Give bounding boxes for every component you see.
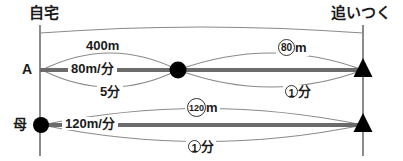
annot-distance-120m-circled: 120m [185,98,220,117]
unit-min-a: 分 [298,84,311,99]
circled-value-1-mother: 1 [188,140,201,153]
annot-time-5min: 5分 [97,85,123,98]
speed-distance-diagram: 自宅 追いつく A 母 400m 80m/分 5分 80m 1分 120m 12… [0,0,403,161]
unit-min-mother: 分 [201,139,214,154]
meeting-point-dot-marker [170,62,187,79]
unit-m-120: m [206,100,218,115]
circled-value-80: 80 [278,39,295,56]
lens-arc-80m-top [178,53,363,70]
diagram-canvas [0,0,403,161]
unit-m-80: m [295,40,307,55]
row-label-a: A [22,62,32,76]
annot-distance-400m: 400m [83,39,122,52]
catchup-label: 追いつく [331,5,391,20]
catchup-triangle-marker-mother [354,113,373,132]
circled-value-1-a: 1 [285,85,298,98]
outer-arc-total [40,27,363,33]
annot-distance-80m-circled: 80m [276,39,309,56]
annot-time-1min-circled-a: 1分 [283,85,313,98]
home-label: 自宅 [29,5,59,20]
annot-time-1min-circled-mother: 1分 [186,140,216,153]
circled-value-120: 120 [187,98,206,117]
annot-speed-mother: 120m/分 [62,117,118,130]
lens-arc-1min-bottom [178,70,363,87]
annot-speed-a: 80m/分 [68,62,117,75]
row-label-mother: 母 [13,117,27,131]
mother-home-dot-marker [33,117,49,133]
